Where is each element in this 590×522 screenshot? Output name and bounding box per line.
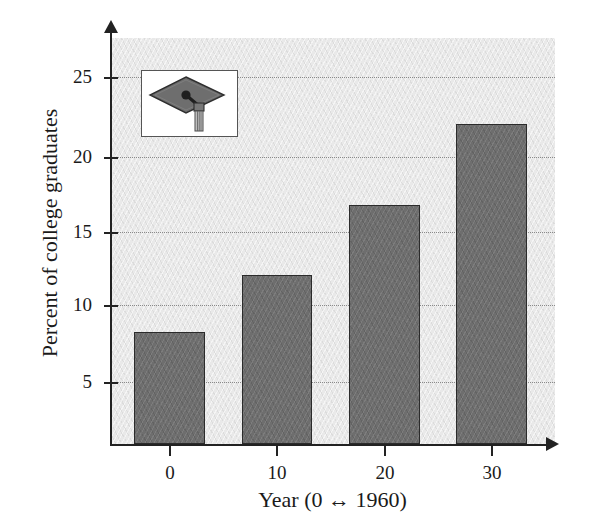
bar-chart: 25 20 15 10 5 0 10 20 30 Percent of coll… <box>0 0 590 522</box>
y-tick-mark-25 <box>104 77 118 79</box>
bar-year-0 <box>134 332 205 444</box>
x-tick-mark-10 <box>276 444 278 456</box>
x-tick-label-10: 10 <box>247 462 307 484</box>
bar-year-30 <box>456 124 527 444</box>
y-axis-arrow-icon <box>104 20 118 33</box>
x-tick-mark-30 <box>491 444 493 456</box>
graduation-cap-icon <box>142 71 236 135</box>
y-tick-mark-15 <box>104 232 118 234</box>
x-axis-arrow-icon <box>546 437 559 451</box>
y-axis-title: Percent of college graduates <box>37 63 63 403</box>
bar-year-10 <box>242 275 312 444</box>
x-tick-label-30: 30 <box>462 462 522 484</box>
y-tick-mark-5 <box>104 382 118 384</box>
x-axis-title: Year (0 ↔ 1960) <box>110 487 555 513</box>
x-axis-line <box>110 444 550 446</box>
x-tick-mark-20 <box>384 444 386 456</box>
x-tick-label-20: 20 <box>355 462 415 484</box>
y-tick-mark-20 <box>104 157 118 159</box>
y-tick-mark-10 <box>104 305 118 307</box>
graduation-cap-inset <box>141 70 238 137</box>
bar-year-20 <box>349 205 420 444</box>
x-tick-label-0: 0 <box>140 462 200 484</box>
x-tick-mark-0 <box>169 444 171 456</box>
